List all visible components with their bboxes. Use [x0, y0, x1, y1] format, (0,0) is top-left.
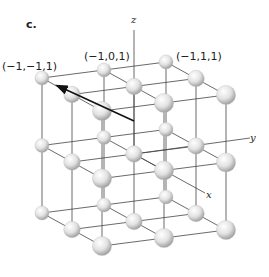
lattice-sphere: [126, 78, 143, 95]
lattice-sphere: [216, 153, 235, 172]
lattice-sphere: [188, 138, 205, 155]
lattice-edge: [104, 130, 166, 138]
lattice-sphere: [188, 205, 205, 222]
lattice-sphere: [159, 123, 173, 137]
lattice-sphere: [92, 101, 111, 120]
lattice-edge: [104, 62, 166, 70]
lattice-spheres: [35, 55, 236, 256]
lattice-edge: [42, 205, 104, 213]
lattice-sphere: [126, 146, 143, 163]
coord-label-minus1-minus1-1: (−1,−1,1): [2, 60, 57, 73]
coord-label-minus1-0-1: (−1,0,1): [84, 50, 130, 63]
lattice-sphere: [216, 85, 235, 104]
coord-label-minus1-1-1: (−1,1,1): [176, 50, 222, 63]
lattice-sphere: [188, 70, 205, 87]
lattice-sphere: [97, 63, 111, 77]
lattice-sphere: [159, 190, 173, 204]
lattice-sphere: [64, 221, 81, 238]
lattice-sphere: [216, 220, 235, 239]
lattice-sphere: [154, 161, 173, 180]
lattice-sphere: [126, 213, 143, 230]
lattice-edge: [134, 214, 196, 222]
lattice-sphere: [154, 228, 173, 247]
cubic-lattice-diagram: [0, 0, 269, 277]
lattice-edge: [42, 138, 104, 146]
y-axis-label: y: [250, 132, 256, 143]
lattice-sphere: [92, 236, 111, 255]
lattice-sphere: [97, 131, 111, 145]
lattice-sphere: [35, 206, 49, 220]
lattice-edge: [72, 87, 134, 95]
lattice-sphere: [64, 154, 81, 171]
z-axis-label: z: [131, 14, 136, 25]
lattice-sphere: [92, 169, 111, 188]
lattice-sphere: [35, 139, 49, 153]
panel-label: c.: [26, 18, 37, 31]
lattice-sphere: [97, 198, 111, 212]
lattice-sphere: [35, 71, 49, 85]
lattice-sphere: [159, 55, 173, 69]
lattice-edge: [104, 197, 166, 205]
lattice-edge: [72, 154, 134, 162]
lattice-edge: [72, 222, 134, 230]
lattice-sphere: [154, 93, 173, 112]
lattice-edge: [134, 79, 196, 87]
figure: c. (−1,−1,1) (−1,0,1) (−1,1,1) z y x: [0, 0, 269, 277]
x-axis-label: x: [206, 189, 212, 200]
